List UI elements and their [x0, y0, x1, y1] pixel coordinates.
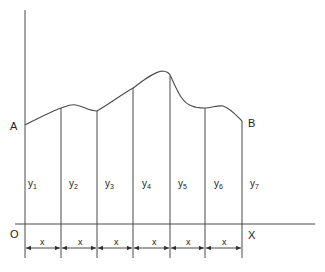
diagram-canvas: A B O X y1 y2 y3 y4 y5 y6 y7 x x x x — [0, 0, 325, 272]
ordinate-labels: y1 y2 y3 y4 y5 y6 y7 — [28, 178, 259, 190]
interval-label-4: x — [152, 237, 157, 247]
ordinate-label-y4: y4 — [142, 178, 151, 190]
interval-label-1: x — [40, 237, 45, 247]
interval-label-6: x — [222, 237, 227, 247]
point-a-label: A — [10, 120, 18, 132]
origin-label: O — [10, 228, 19, 240]
ordinate-label-y3: y3 — [105, 178, 114, 190]
point-b-label: B — [248, 117, 255, 129]
trapezoidal-rule-diagram: A B O X y1 y2 y3 y4 y5 y6 y7 x x x x — [0, 0, 325, 272]
ordinate-label-y7: y7 — [250, 178, 259, 190]
ordinate-label-y1: y1 — [28, 178, 37, 190]
interval-label-3: x — [114, 237, 119, 247]
ordinate-label-y5: y5 — [178, 178, 187, 190]
ordinate-lines — [61, 76, 242, 258]
interval-label-2: x — [78, 237, 83, 247]
ordinate-label-y2: y2 — [69, 178, 78, 190]
x-axis-label: X — [248, 229, 256, 241]
ordinate-label-y6: y6 — [214, 178, 223, 190]
interval-label-5: x — [186, 237, 191, 247]
